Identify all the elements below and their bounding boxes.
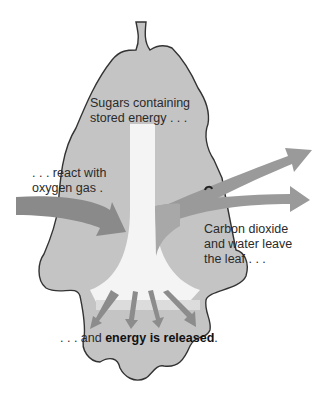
energy-label-suffix: .	[214, 331, 217, 345]
oxygen-label-line2: oxygen gas .	[32, 181, 106, 196]
sugars-label-line2: stored energy . . .	[90, 111, 190, 126]
sugars-label: Sugars containing stored energy . . .	[90, 96, 190, 126]
energy-label-bold: energy is released	[105, 331, 214, 345]
sugars-label-line1: Sugars containing	[90, 96, 190, 111]
oxygen-label: . . . react with oxygen gas .	[32, 166, 106, 196]
co2-label-line2: and water leave	[204, 237, 292, 252]
oxygen-label-line1: . . . react with	[32, 166, 106, 181]
co2-label: Carbon dioxide and water leave the leaf …	[204, 222, 292, 267]
co2-label-line3: the leaf . . .	[204, 252, 292, 267]
leaf-diagram	[0, 0, 321, 412]
energy-label: . . . and energy is released.	[60, 331, 218, 346]
co2-label-line1: Carbon dioxide	[204, 222, 292, 237]
energy-label-prefix: . . . and	[60, 331, 105, 345]
